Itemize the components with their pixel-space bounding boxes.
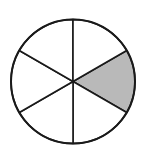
fraction-circle-diagram xyxy=(0,0,151,152)
fraction-circle xyxy=(0,0,151,152)
